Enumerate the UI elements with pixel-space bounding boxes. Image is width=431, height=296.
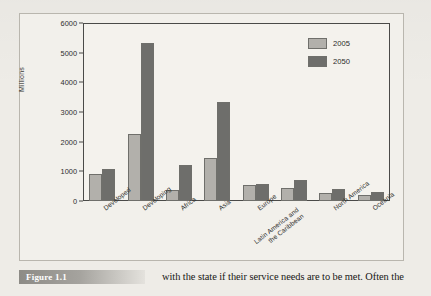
bar-group [198,23,236,201]
bar-2005 [358,195,371,201]
x-axis-tick: Africa [160,202,198,262]
bar-group [352,23,390,201]
bar-2050 [141,43,154,201]
y-axis-tick-label: 4000 [25,78,77,87]
bar-group [237,23,275,201]
scanned-page: Millions 6000500040003000200010000 Devel… [0,0,431,296]
bar-group [160,23,198,201]
bar-chart: Millions 6000500040003000200010000 Devel… [20,14,403,260]
bar-2050 [179,165,192,201]
figure-caption-band: Figure 1.1 [19,270,145,284]
bar-2005 [89,174,102,201]
body-paragraph-text: with the state if their service needs ar… [162,271,404,282]
figure-chart-box: Millions 6000500040003000200010000 Devel… [19,13,404,261]
bar-2005 [281,188,294,201]
y-axis-tick-label: 0 [25,197,77,206]
x-axis-tick: Developed [83,202,121,262]
bar-2050 [217,102,230,201]
chart-legend: 2005 2050 [308,38,350,74]
bar-2005 [204,158,217,201]
bar-group [121,23,159,201]
legend-swatch-2005 [308,38,327,49]
bar-2005 [243,185,256,201]
bar-2050 [294,180,307,201]
bar-group [83,23,121,201]
x-axis-tick: Asia [198,202,236,262]
figure-caption-label: Figure 1.1 [26,272,67,282]
x-axis-tick: North America [313,202,351,262]
y-axis-tick-label: 6000 [25,19,77,28]
x-axis-tick: Developing [121,202,159,262]
x-axis-ticks: DevelopedDevelopingAfricaAsiaEuropeLatin… [83,202,390,262]
legend-item-2050: 2050 [308,56,350,67]
y-axis-tick-label: 3000 [25,108,77,117]
x-axis-tick: Latin America andthe Caribbean [275,202,313,262]
y-axis-tick-label: 5000 [25,48,77,57]
y-axis-tick-label: 2000 [25,137,77,146]
legend-swatch-2050 [308,56,327,67]
legend-item-2005: 2005 [308,38,350,49]
y-axis-tick-label: 1000 [25,167,77,176]
x-axis-tick: Oceania [352,202,390,262]
y-axis-title: Millions [18,67,25,92]
bar-2005 [319,193,332,201]
legend-label-2005: 2005 [333,39,350,48]
legend-label-2050: 2050 [333,57,350,66]
